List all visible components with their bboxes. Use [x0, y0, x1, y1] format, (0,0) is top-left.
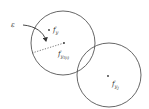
right-center-point — [107, 75, 109, 77]
nearest-point-label: fyl(i) — [57, 50, 70, 60]
right-circle — [77, 43, 141, 107]
left-center-label: fy — [52, 26, 59, 36]
nearest-point — [63, 42, 65, 44]
epsilon-arrow — [23, 25, 46, 41]
diagram-canvas: ε fy fyl(i) fyj — [0, 0, 149, 109]
left-center-point — [48, 29, 50, 31]
right-center-label: fyj — [111, 80, 119, 90]
epsilon-label: ε — [11, 21, 15, 29]
